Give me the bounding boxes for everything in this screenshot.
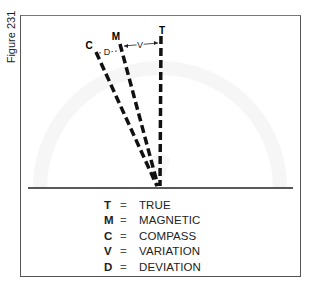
legend-equals: = xyxy=(120,245,139,257)
legend-value: COMPASS xyxy=(139,230,196,242)
compass-line-label: C xyxy=(85,40,92,51)
legend-equals: = xyxy=(120,261,139,273)
legend-value: TRUE xyxy=(139,199,171,211)
legend-key: T xyxy=(104,199,120,211)
legend-key: V xyxy=(104,245,120,257)
variation-label: V xyxy=(137,40,143,50)
deviation-label: D xyxy=(104,47,111,57)
legend-row-variation: V = VARIATION xyxy=(104,244,201,260)
legend-value: MAGNETIC xyxy=(139,214,201,226)
legend-key: C xyxy=(104,230,120,242)
magnetic-line-label: M xyxy=(112,31,120,42)
legend-row-compass: C = COMPASS xyxy=(104,228,201,244)
true-line-label: T xyxy=(159,25,165,36)
legend-equals: = xyxy=(120,230,139,242)
legend: T = TRUE M = MAGNETIC C = COMPASS V = VA… xyxy=(104,197,201,275)
legend-key: M xyxy=(104,214,120,226)
legend-row-true: T = TRUE xyxy=(104,197,201,213)
legend-row-magnetic: M = MAGNETIC xyxy=(104,213,201,229)
true-north-line xyxy=(160,36,161,186)
legend-equals: = xyxy=(120,199,139,211)
legend-key: D xyxy=(104,261,120,273)
legend-equals: = xyxy=(120,214,139,226)
legend-value: DEVIATION xyxy=(139,261,201,273)
legend-row-deviation: D = DEVIATION xyxy=(104,259,201,275)
legend-value: VARIATION xyxy=(139,245,200,257)
